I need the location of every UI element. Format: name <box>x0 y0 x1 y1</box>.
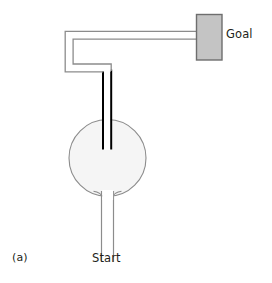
black-wall-corridor <box>103 69 111 150</box>
start-corridor-mouth-fill <box>102 190 113 200</box>
black-corridor-interior <box>103 69 110 150</box>
start-label: Start <box>92 253 121 265</box>
maze-diagram-svg <box>0 0 272 283</box>
maze-figure: Goal Start (a) <box>0 0 272 283</box>
panel-label: (a) <box>12 252 28 263</box>
goal-label: Goal <box>226 29 253 41</box>
goal-box <box>197 15 223 61</box>
